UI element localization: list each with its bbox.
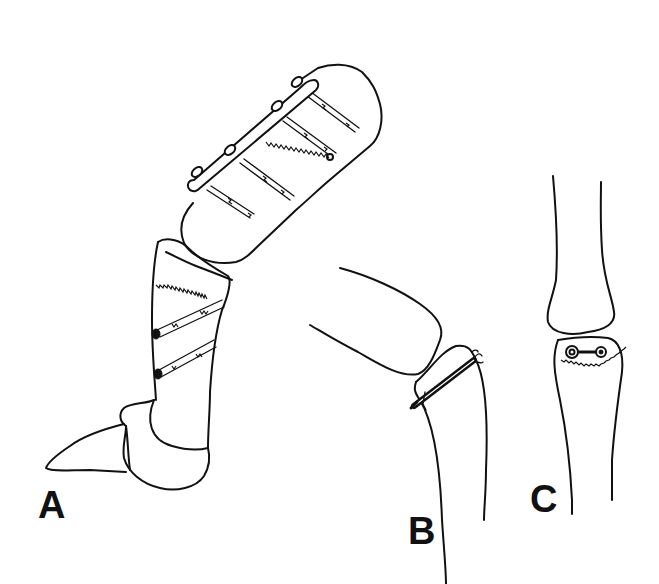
panel-a-plate-screw-heads — [190, 75, 304, 179]
panel-a-middle-bone — [152, 239, 230, 448]
panel-a-lag-screw-head-1 — [152, 329, 160, 339]
panel-c-screw — [566, 346, 606, 358]
panel-b-proximal-bone — [310, 268, 441, 375]
panel-c-drawing — [548, 176, 626, 514]
panel-label-c: C — [530, 480, 557, 518]
panel-a-middle-fracture-line — [156, 285, 207, 299]
panel-c-proximal-bone — [548, 176, 615, 334]
panel-b-screw — [411, 350, 483, 410]
panel-a-distal-bone — [46, 400, 209, 490]
panel-label-a: A — [38, 486, 65, 524]
panel-a-upper-fracture-line — [266, 142, 329, 158]
fracture-fixation-diagram — [0, 0, 659, 584]
panel-b-drawing — [310, 268, 487, 584]
panel-label-b: B — [408, 512, 435, 550]
panel-b-distal-bone — [415, 382, 446, 584]
panel-a-drawing — [46, 65, 382, 490]
panel-a-upper-bone — [181, 65, 381, 263]
panel-a-lag-screw-head-2 — [154, 369, 162, 379]
panel-a-dorsal-plate — [188, 80, 318, 191]
